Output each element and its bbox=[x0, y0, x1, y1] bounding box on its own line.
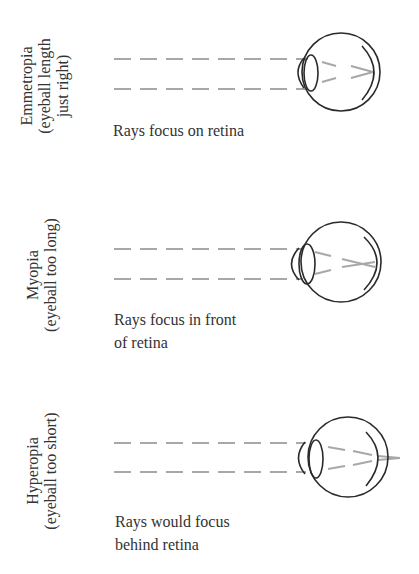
eye-hyperopia-icon bbox=[114, 417, 400, 497]
incoming-rays bbox=[114, 443, 306, 472]
cornea bbox=[299, 442, 306, 474]
lens bbox=[304, 55, 318, 91]
cornea bbox=[292, 248, 300, 280]
retina bbox=[366, 432, 378, 486]
incoming-rays bbox=[114, 249, 303, 279]
refracted-rays bbox=[322, 62, 373, 82]
eye-emmetropia-icon bbox=[114, 33, 380, 111]
eyeball-outline bbox=[302, 33, 380, 111]
eye-diagrams bbox=[0, 0, 419, 574]
refracted-rays bbox=[315, 252, 375, 274]
eyeball-outline bbox=[308, 417, 388, 497]
incoming-rays bbox=[114, 59, 308, 89]
eye-myopia-icon bbox=[114, 222, 381, 302]
lens bbox=[309, 440, 323, 478]
refracted-rays bbox=[328, 447, 400, 469]
